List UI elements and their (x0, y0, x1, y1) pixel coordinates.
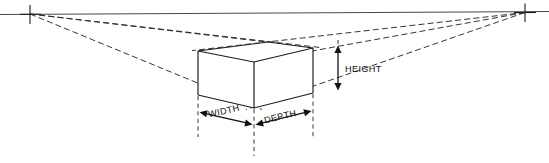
perspective-box (198, 42, 313, 108)
height-arrow-head-down (334, 83, 341, 91)
width-arrow-head-right (244, 119, 252, 126)
depth-arrow-head-left (256, 120, 264, 127)
depth-label: DEPTH (263, 108, 297, 125)
perspective-drawing-canvas: HEIGHT WIDTH DEPTH (0, 0, 549, 163)
height-dimension: HEIGHT (334, 46, 381, 91)
height-label: HEIGHT (345, 64, 382, 74)
width-label: WIDTH (207, 103, 240, 120)
height-arrow-head-up (334, 46, 341, 54)
horizon-line (0, 12, 549, 15)
left-vp-ray-top-back (30, 14, 320, 48)
width-arrow-head-left (200, 110, 208, 117)
depth-arrow-head-right (303, 109, 311, 116)
depth-dimension: DEPTH (256, 108, 312, 127)
perspective-diagram: HEIGHT WIDTH DEPTH (0, 0, 549, 163)
left-vp-ray-top-front (30, 14, 268, 42)
